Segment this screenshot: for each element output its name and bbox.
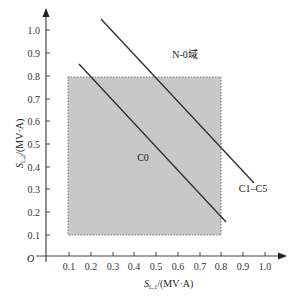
x-tick-label: 0.4	[128, 261, 141, 272]
y-tick-label: 0.8	[28, 71, 41, 82]
x-tick-labels: 0.1 0.2 0.3 0.4 0.5 0.6 0.7 0.8 0.9 1.0	[63, 261, 272, 272]
x-tick-label: 0.1	[63, 261, 76, 272]
x-tick-label: 0.3	[107, 261, 120, 272]
y-tick-label: 0.4	[28, 162, 41, 173]
y-tick-label: 0.1	[28, 230, 41, 241]
y-axis-title: SL,2/(MV·A)	[14, 119, 26, 168]
y-tick-label: 0.6	[28, 116, 41, 127]
x-tick-label: 1.0	[259, 261, 272, 272]
x-tick-label: 0.7	[194, 261, 207, 272]
y-tick-label: 0.7	[28, 94, 41, 105]
y-tick-label: 0.2	[28, 207, 41, 218]
y-tick-labels: 0.1 0.2 0.3 0.4 0.5 0.6 0.7 0.8 0.9 1.0	[28, 25, 41, 241]
origin-label: O	[27, 253, 34, 264]
x-tick-label: 0.6	[172, 261, 185, 272]
y-axis-arrow-icon	[43, 8, 50, 17]
y-tick-label: 0.9	[28, 48, 41, 59]
x-tick-label: 0.2	[85, 261, 98, 272]
annotation-n0-region: N-0域	[172, 48, 198, 60]
x-tick-label: 0.5	[150, 261, 163, 272]
x-axis-arrow-icon	[278, 253, 287, 260]
x-tick-label: 0.8	[215, 261, 228, 272]
annotation-c0: C0	[137, 152, 149, 163]
annotation-c1-c5: C1–C5	[239, 183, 267, 194]
y-tick-label: 0.5	[28, 139, 41, 150]
x-axis-title: SL,1/(MV·A)	[144, 278, 193, 290]
chart-svg: 0.1 0.2 0.3 0.4 0.5 0.6 0.7 0.8 0.9 1.0 …	[0, 0, 291, 297]
x-tick-label: 0.9	[237, 261, 250, 272]
y-tick-label: 0.3	[28, 184, 41, 195]
y-tick-label: 1.0	[28, 25, 41, 36]
chart: 0.1 0.2 0.3 0.4 0.5 0.6 0.7 0.8 0.9 1.0 …	[0, 0, 291, 297]
